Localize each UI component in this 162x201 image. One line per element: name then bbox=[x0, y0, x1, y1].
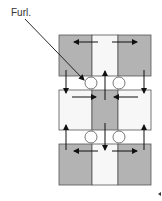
diagram-canvas bbox=[0, 0, 162, 201]
circle-top-right bbox=[113, 77, 125, 89]
corner-mark bbox=[158, 192, 161, 196]
bottom-block bbox=[59, 144, 151, 185]
circle-top-left bbox=[85, 77, 97, 89]
top-block bbox=[59, 35, 151, 76]
circle-bottom-left bbox=[85, 131, 97, 143]
circle-bottom-right bbox=[113, 131, 125, 143]
